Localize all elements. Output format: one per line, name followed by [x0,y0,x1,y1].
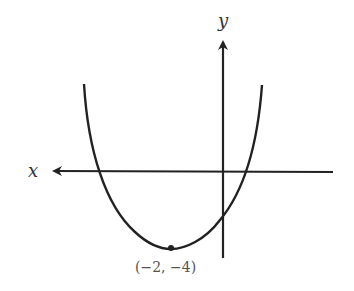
x-axis [54,171,333,172]
parabola-curve [84,84,262,249]
vertex-point [168,245,174,251]
parabola-diagram: y x (−2, −4) [0,0,354,291]
y-axis-label: y [217,10,229,31]
vertex-label: (−2, −4) [135,259,196,275]
x-axis-label: x [28,160,38,181]
